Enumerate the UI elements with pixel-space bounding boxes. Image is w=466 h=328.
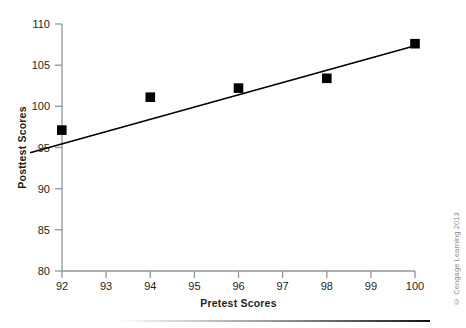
y-axis-ticks [55, 24, 62, 271]
data-point-marker[interactable] [322, 74, 332, 84]
x-tick-label-98: 98 [321, 280, 333, 292]
x-tick-label-95: 95 [188, 280, 200, 292]
x-tick-label-94: 94 [144, 280, 156, 292]
regression-trendline [30, 46, 415, 153]
chart-screenshot: 110 105 100 95 90 85 80 [0, 0, 466, 328]
y-tick-label-80: 80 [38, 265, 50, 277]
x-axis-ticks [62, 271, 415, 278]
y-tick-label-110: 110 [32, 18, 50, 30]
x-tick-label-93: 93 [100, 280, 112, 292]
y-tick-label-85: 85 [38, 224, 50, 236]
data-point-marker[interactable] [57, 125, 67, 135]
data-point-marker[interactable] [410, 39, 420, 49]
data-point-marker[interactable] [146, 92, 156, 102]
y-axis-title: Posttest Scores [16, 106, 28, 188]
x-axis-tick-labels: 92 93 94 95 96 97 98 99 100 [56, 280, 424, 292]
y-tick-label-100: 100 [32, 100, 50, 112]
y-tick-label-105: 105 [32, 59, 50, 71]
chart-canvas: 110 105 100 95 90 85 80 [0, 0, 440, 312]
x-axis-title: Pretest Scores [200, 297, 276, 309]
x-tick-label-97: 97 [276, 280, 288, 292]
x-tick-label-99: 99 [365, 280, 377, 292]
y-tick-label-90: 90 [38, 183, 50, 195]
x-tick-label-100: 100 [406, 280, 424, 292]
scatter-plot: 110 105 100 95 90 85 80 [0, 0, 440, 312]
copyright-notice: © Cengage Learning 2013 [450, 206, 464, 306]
data-points-group [57, 39, 420, 135]
x-tick-label-96: 96 [232, 280, 244, 292]
x-tick-label-92: 92 [56, 280, 68, 292]
bottom-divider [118, 320, 430, 322]
data-point-marker[interactable] [234, 83, 244, 93]
